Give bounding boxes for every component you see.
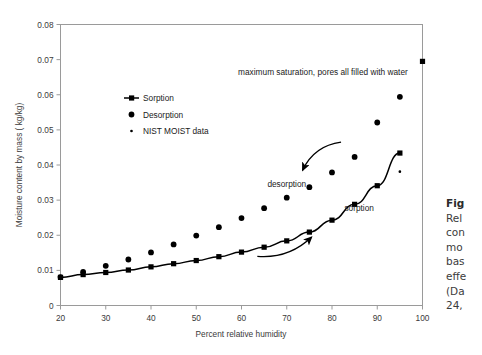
caption-line: Rel <box>446 211 482 226</box>
y-axis-title: Moisture content by mass ( kg/kg) <box>14 103 24 228</box>
data-point-marker <box>420 59 425 64</box>
y-tick-label: 0.05 <box>37 125 54 135</box>
x-tick-label: 80 <box>327 313 337 323</box>
y-tick-label: 0 <box>49 301 54 311</box>
data-point-marker <box>374 120 380 126</box>
data-point-marker <box>306 184 312 190</box>
caption-line: con <box>446 225 482 240</box>
moisture-sorption-chart: 00.010.020.030.040.050.060.070.08 203040… <box>0 0 482 355</box>
data-point-marker <box>261 205 267 211</box>
data-point-marker <box>375 183 380 188</box>
caption-line: Fig <box>446 196 482 211</box>
x-tick-label: 90 <box>373 313 383 323</box>
caption-line: 24, <box>446 298 482 313</box>
chart-annotation: maximum saturation, pores all filled wit… <box>238 67 408 77</box>
data-point-marker <box>262 245 267 250</box>
data-point-marker <box>239 215 245 221</box>
chart-background <box>0 0 482 355</box>
data-point-marker <box>103 263 109 269</box>
caption-line: (Da <box>446 284 482 299</box>
y-tick-label: 0.04 <box>37 160 54 170</box>
data-point-marker <box>397 150 402 155</box>
data-point-marker <box>239 250 244 255</box>
x-tick-label: 50 <box>192 313 202 323</box>
caption-line: mo <box>446 240 482 255</box>
y-tick-label: 0.06 <box>37 90 54 100</box>
data-point-marker <box>148 264 153 269</box>
legend-label: Desorption <box>143 110 184 120</box>
data-point-marker <box>352 154 358 160</box>
data-point-marker <box>284 238 289 243</box>
series-maximum-saturation-point <box>420 59 425 64</box>
data-point-marker <box>125 257 131 263</box>
data-point-marker <box>104 270 107 273</box>
y-tick-label: 0.07 <box>37 55 54 65</box>
x-tick-label: 60 <box>237 313 247 323</box>
y-tick-label: 0.02 <box>37 230 54 240</box>
chart-annotation: sorption <box>344 203 374 213</box>
legend-dot-marker <box>130 130 133 133</box>
data-point-marker <box>171 261 176 266</box>
data-point-marker <box>399 170 402 173</box>
legend-square-marker <box>129 95 134 100</box>
chart-annotation: desorption <box>267 179 306 189</box>
data-point-marker <box>82 272 85 275</box>
data-point-marker <box>148 250 154 256</box>
x-axis-title: Percent relative humidity <box>196 329 288 339</box>
data-point-marker <box>329 169 335 175</box>
y-tick-label: 0.08 <box>37 20 54 30</box>
x-tick-label: 70 <box>282 313 292 323</box>
figure-root: 00.010.020.030.040.050.060.070.08 203040… <box>0 0 482 355</box>
x-tick-label: 100 <box>416 313 430 323</box>
x-tick-label: 40 <box>146 313 156 323</box>
data-point-marker <box>194 258 199 263</box>
data-point-marker <box>59 275 62 278</box>
data-point-marker <box>397 94 403 100</box>
y-tick-label: 0.03 <box>37 195 54 205</box>
y-tick-label: 0.01 <box>37 265 54 275</box>
legend-circle-marker <box>129 112 135 118</box>
data-point-marker <box>216 254 221 259</box>
figure-caption: Fig Rel con mo bas effe (Da 24, <box>446 196 482 313</box>
legend-label: Sorption <box>143 93 174 103</box>
data-point-marker <box>284 195 290 201</box>
data-point-marker <box>216 224 222 230</box>
data-point-marker <box>171 241 177 247</box>
x-tick-label: 30 <box>101 313 111 323</box>
caption-line: bas <box>446 254 482 269</box>
data-point-marker <box>307 229 312 234</box>
data-point-marker <box>329 218 334 223</box>
data-point-marker <box>126 267 131 272</box>
caption-line: effe <box>446 269 482 284</box>
data-point-marker <box>193 233 199 239</box>
x-tick-label: 20 <box>56 313 66 323</box>
legend-label: NIST MOIST data <box>143 126 209 136</box>
